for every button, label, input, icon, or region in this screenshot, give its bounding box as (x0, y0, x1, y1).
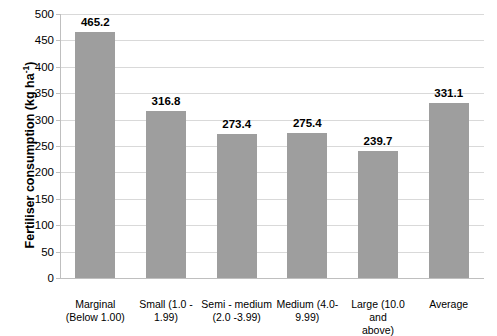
plot-area: 050100150200250300350400450500465.2Margi… (60, 14, 484, 278)
gridline (60, 146, 484, 147)
gridline (60, 225, 484, 226)
x-axis-category-line: (Below 1.00) (60, 311, 131, 324)
y-axis-tick-label: 350 (4, 87, 54, 99)
gridline (60, 14, 484, 15)
y-axis-tick-label: 450 (4, 34, 54, 46)
x-axis-category-label: Semi - medium(2.0 -3.99) (201, 298, 272, 324)
bar (358, 151, 398, 278)
bar (217, 134, 257, 278)
x-axis-category-label: Average (413, 298, 484, 311)
x-axis-line (60, 278, 484, 279)
y-axis-tick-label: 250 (4, 140, 54, 152)
x-axis-category-line: 1.99) (131, 311, 202, 324)
x-axis-category-label: Medium (4.0-9.99) (272, 298, 343, 324)
y-axis-line (60, 14, 61, 278)
gridline (60, 120, 484, 121)
gridline (60, 40, 484, 41)
bar-value-label: 273.4 (207, 118, 267, 130)
y-axis-tick-label: 400 (4, 61, 54, 73)
bar-value-label: 316.8 (136, 95, 196, 107)
bar-value-label: 275.4 (277, 117, 337, 129)
y-axis-tick-label: 300 (4, 114, 54, 126)
bar-value-label: 331.1 (419, 87, 479, 99)
x-axis-category-line: Marginal (60, 298, 131, 311)
gridline (60, 252, 484, 253)
x-axis-category-line: (2.0 -3.99) (201, 311, 272, 324)
gridline (60, 67, 484, 68)
bar (146, 111, 186, 278)
x-axis-category-label: Large (10.0 andabove) (343, 298, 414, 336)
bar-chart: Fertiliser consumption (kg ha-1) 0501001… (0, 0, 497, 336)
x-axis-category-line: Medium (4.0- (272, 298, 343, 311)
bar (429, 103, 469, 278)
x-axis-category-label: Small (1.0 -1.99) (131, 298, 202, 324)
gridline (60, 172, 484, 173)
y-axis-tick-label: 0 (4, 272, 54, 284)
y-axis-tick-label: 150 (4, 193, 54, 205)
bar-value-label: 239.7 (348, 135, 408, 147)
y-axis-tick-mark (56, 278, 60, 279)
x-axis-category-line: 9.99) (272, 311, 343, 324)
x-axis-category-line: Semi - medium (201, 298, 272, 311)
x-axis-category-line: Average (413, 298, 484, 311)
bar (75, 32, 115, 278)
x-axis-category-label: Marginal(Below 1.00) (60, 298, 131, 324)
y-axis-tick-label: 100 (4, 219, 54, 231)
y-axis-tick-label: 50 (4, 246, 54, 258)
y-axis-tick-label: 200 (4, 166, 54, 178)
x-axis-category-line: Large (10.0 and (343, 298, 414, 324)
y-axis-tick-label: 500 (4, 8, 54, 20)
bar-value-label: 465.2 (65, 16, 125, 28)
gridline (60, 199, 484, 200)
x-axis-category-line: Small (1.0 - (131, 298, 202, 311)
bar (287, 133, 327, 278)
x-axis-category-line: above) (343, 324, 414, 336)
